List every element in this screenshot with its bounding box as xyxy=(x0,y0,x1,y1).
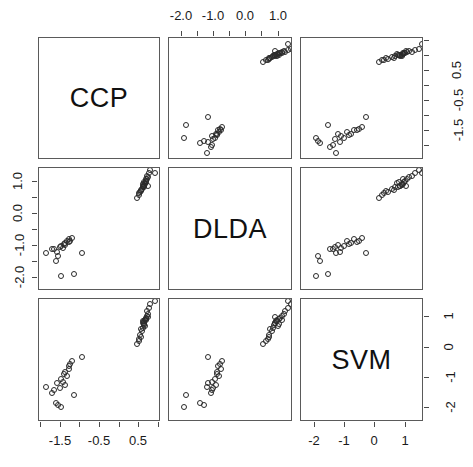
axis-label-top-dlda-1: -1.0 xyxy=(202,8,224,23)
data-point xyxy=(138,188,144,194)
scatter-panel-svm-vs-dlda xyxy=(168,298,292,421)
axis-label-bottom-ccp-2: 0.5 xyxy=(129,433,147,448)
axis-tick-top xyxy=(278,31,279,36)
data-point xyxy=(356,238,362,244)
axis-label-top-dlda-3: 1.0 xyxy=(269,8,287,23)
data-point xyxy=(138,334,144,340)
data-point xyxy=(51,246,57,252)
scatter-panel-svm-vs-ccp xyxy=(38,298,160,421)
axis-tick-top xyxy=(229,31,230,36)
axis-label-bottom-ccp-0: -1.5 xyxy=(49,433,71,448)
data-point xyxy=(338,245,344,251)
data-point xyxy=(204,150,210,156)
diagonal-panel-ccp: CCP xyxy=(38,37,160,159)
axis-label-bottom-svm-0: -2 xyxy=(308,433,320,448)
scatter-panel-ccp-vs-dlda xyxy=(168,37,292,159)
axis-label-top-dlda-2: 0.0 xyxy=(236,8,254,23)
data-point xyxy=(363,114,369,120)
axis-tick-bottom xyxy=(314,422,315,427)
data-point xyxy=(348,240,354,246)
scatter-panel-dlda-vs-ccp xyxy=(38,167,160,290)
data-point xyxy=(152,170,158,176)
data-point xyxy=(183,392,189,398)
axis-tick-right xyxy=(424,40,429,41)
axis-tick-right xyxy=(424,347,429,348)
data-point xyxy=(197,140,203,146)
data-point xyxy=(58,404,64,410)
axis-tick-left xyxy=(32,197,37,198)
data-point xyxy=(419,170,423,176)
data-point xyxy=(141,183,147,189)
data-point xyxy=(183,122,189,128)
axis-label-bottom-svm-1: -1 xyxy=(338,433,350,448)
axis-tick-bottom xyxy=(405,422,406,427)
data-point xyxy=(325,271,331,277)
axis-tick-right xyxy=(424,130,429,131)
data-point xyxy=(285,41,291,47)
scatter-panel-ccp-vs-svm xyxy=(300,37,423,159)
axis-label-right-row3-svm-2: 0 xyxy=(441,343,456,350)
axis-label-right-svm-0: 0.5 xyxy=(449,61,464,79)
axis-tick-bottom xyxy=(119,422,120,427)
data-point xyxy=(152,298,158,304)
axis-tick-top xyxy=(213,31,214,36)
diagonal-label-dlda: DLDA xyxy=(169,213,291,244)
axis-tick-bottom xyxy=(344,422,345,427)
axis-label-right-row3-svm-0: -2 xyxy=(443,401,458,413)
diagonal-label-svm: SVM xyxy=(301,344,422,375)
data-point xyxy=(205,114,211,120)
data-point xyxy=(281,311,287,317)
data-point xyxy=(348,131,354,137)
scatter-panel-dlda-vs-svm xyxy=(300,167,423,290)
data-point xyxy=(285,298,291,304)
axis-tick-right xyxy=(424,407,429,408)
axis-label-right-row3-svm-1: -1 xyxy=(443,371,458,383)
axis-tick-right xyxy=(424,70,429,71)
diagonal-panel-dlda: DLDA xyxy=(168,167,292,290)
axis-tick-right xyxy=(424,85,429,86)
axis-label-left-dlda-3: 1.0 xyxy=(10,172,25,190)
diagonal-panel-svm: SVM xyxy=(300,298,423,421)
axis-label-left-dlda-0: -2.0 xyxy=(12,266,27,288)
axis-tick-right xyxy=(424,115,429,116)
axis-tick-bottom xyxy=(99,422,100,427)
data-point xyxy=(60,379,66,385)
axis-tick-bottom xyxy=(40,422,41,427)
data-point xyxy=(383,55,389,61)
scatterplot-matrix-figure: CCPDLDASVM-2.0-1.00.01.0-1.5-0.50.5-2-10… xyxy=(0,0,473,467)
axis-tick-top xyxy=(181,31,182,36)
data-point xyxy=(419,41,423,47)
data-point xyxy=(330,246,336,252)
data-point xyxy=(209,142,215,148)
data-point xyxy=(317,258,323,264)
axis-tick-right xyxy=(424,55,429,56)
axis-label-bottom-svm-2: 0 xyxy=(370,433,377,448)
data-point xyxy=(71,392,77,398)
axis-tick-bottom xyxy=(60,422,61,427)
data-point xyxy=(209,387,215,393)
data-point xyxy=(272,52,278,58)
axis-tick-right xyxy=(424,316,429,317)
axis-label-left-dlda-2: 0.0 xyxy=(10,204,25,222)
axis-label-top-dlda-0: -2.0 xyxy=(170,8,192,23)
data-point xyxy=(217,126,223,132)
diagonal-label-ccp: CCP xyxy=(39,83,159,114)
data-point xyxy=(181,135,187,141)
data-point xyxy=(71,271,77,277)
data-point xyxy=(67,361,73,367)
axis-tick-bottom xyxy=(374,422,375,427)
axis-tick-top xyxy=(245,31,246,36)
axis-label-right-svm-2: -1.5 xyxy=(451,119,466,141)
data-point xyxy=(363,250,369,256)
data-point xyxy=(214,131,220,137)
data-point xyxy=(333,150,339,156)
axis-tick-bottom xyxy=(79,422,80,427)
data-point xyxy=(51,387,57,393)
data-point xyxy=(313,273,319,279)
data-point xyxy=(43,384,49,390)
data-point xyxy=(330,142,336,148)
axis-label-right-row3-svm-3: 1 xyxy=(441,312,456,319)
axis-tick-top xyxy=(197,31,198,36)
data-point xyxy=(397,52,403,58)
axis-tick-bottom xyxy=(158,422,159,427)
